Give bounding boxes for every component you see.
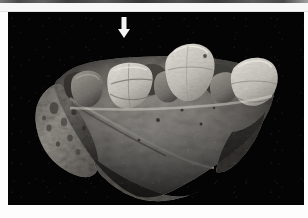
page-bottom-margin xyxy=(0,205,308,218)
page-left-margin xyxy=(0,12,8,218)
specimen-illustration xyxy=(8,12,304,205)
specimen-photograph xyxy=(8,12,304,205)
pointer-arrow xyxy=(118,17,130,38)
page-right-margin xyxy=(304,12,308,218)
page-top-margin xyxy=(0,3,308,12)
figure-page xyxy=(0,0,308,218)
